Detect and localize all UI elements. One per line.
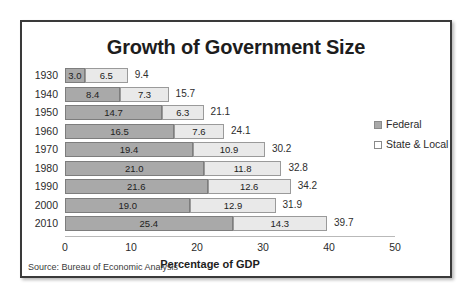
figure-page: Growth of Government Size 19303.06.59.41… — [0, 0, 468, 298]
bar-value-federal: 8.4 — [66, 88, 119, 101]
bar-value-federal: 19.0 — [66, 199, 189, 212]
year-axis-label: 1960 — [22, 125, 58, 137]
bar-total-label: 21.1 — [211, 106, 230, 117]
legend-label: State & Local — [386, 138, 448, 150]
stacked-bar: 21.612.6 — [65, 179, 291, 194]
year-axis-label: 1950 — [22, 106, 58, 118]
bar-value-federal: 25.4 — [66, 217, 232, 230]
bar-value-federal: 19.4 — [66, 143, 192, 156]
bar-segment-state-local: 6.3 — [162, 105, 204, 120]
year-axis-label: 1930 — [22, 69, 58, 81]
chart-row: 19408.47.315.7 — [22, 87, 450, 102]
bar-value-state-local: 6.3 — [163, 106, 203, 119]
legend-item: Federal — [374, 118, 454, 138]
bar-segment-state-local: 14.3 — [233, 216, 327, 231]
x-axis-tick-label: 30 — [243, 241, 283, 253]
stacked-bar: 3.06.5 — [65, 68, 128, 83]
bar-segment-state-local: 12.6 — [208, 179, 291, 194]
bar-total-label: 30.2 — [272, 143, 291, 154]
bar-segment-federal: 25.4 — [65, 216, 233, 231]
bar-segment-federal: 21.6 — [65, 179, 208, 194]
source-note: Source: Bureau of Economic Analysis — [28, 262, 178, 272]
bar-value-state-local: 7.6 — [175, 125, 223, 138]
bar-segment-state-local: 7.3 — [120, 87, 168, 102]
bar-segment-federal: 16.5 — [65, 124, 174, 139]
bar-total-label: 15.7 — [176, 88, 195, 99]
x-axis-line — [65, 236, 395, 237]
bar-value-state-local: 12.9 — [191, 199, 274, 212]
x-axis-tick-label: 40 — [309, 241, 349, 253]
bar-segment-state-local: 7.6 — [174, 124, 224, 139]
bar-total-label: 34.2 — [298, 180, 317, 191]
stacked-bar: 21.011.8 — [65, 161, 281, 176]
bar-segment-federal: 8.4 — [65, 87, 120, 102]
bar-value-state-local: 12.6 — [209, 180, 290, 193]
bar-value-state-local: 14.3 — [234, 217, 326, 230]
stacked-bar: 14.76.3 — [65, 105, 204, 120]
bar-value-state-local: 7.3 — [121, 88, 167, 101]
bar-segment-federal: 14.7 — [65, 105, 162, 120]
year-axis-label: 1940 — [22, 88, 58, 100]
federal-swatch — [374, 121, 382, 129]
stacked-bar: 8.47.3 — [65, 87, 169, 102]
year-axis-label: 2010 — [22, 217, 58, 229]
bar-total-label: 9.4 — [135, 69, 149, 80]
bar-value-state-local: 6.5 — [86, 69, 127, 82]
bar-segment-state-local: 11.8 — [204, 161, 282, 176]
bar-segment-federal: 3.0 — [65, 68, 85, 83]
state-local-swatch — [374, 141, 382, 149]
x-axis-tick-label: 20 — [177, 241, 217, 253]
year-axis-label: 1970 — [22, 143, 58, 155]
bar-value-federal: 14.7 — [66, 106, 161, 119]
stacked-bar: 16.57.6 — [65, 124, 224, 139]
bar-value-state-local: 10.9 — [194, 143, 264, 156]
year-axis-label: 2000 — [22, 199, 58, 211]
bar-segment-state-local: 12.9 — [190, 198, 275, 213]
chart-row: 198021.011.832.8 — [22, 161, 450, 176]
bar-value-federal: 3.0 — [66, 69, 84, 82]
chart-legend: FederalState & Local — [374, 118, 454, 158]
x-axis-tick-label: 0 — [45, 241, 85, 253]
bar-segment-federal: 19.4 — [65, 142, 193, 157]
chart-row: 200019.012.931.9 — [22, 198, 450, 213]
bar-value-federal: 16.5 — [66, 125, 173, 138]
year-axis-label: 1990 — [22, 180, 58, 192]
legend-label: Federal — [386, 118, 422, 130]
chart-title: Growth of Government Size — [22, 36, 450, 59]
chart-row: 19303.06.59.4 — [22, 68, 450, 83]
chart-row: 199021.612.634.2 — [22, 179, 450, 194]
stacked-bar: 19.410.9 — [65, 142, 265, 157]
bar-total-label: 31.9 — [283, 199, 302, 210]
stacked-bar: 25.414.3 — [65, 216, 327, 231]
bar-segment-federal: 19.0 — [65, 198, 190, 213]
bar-value-federal: 21.6 — [66, 180, 207, 193]
chart-figure-frame: Growth of Government Size 19303.06.59.41… — [20, 20, 452, 278]
bar-segment-federal: 21.0 — [65, 161, 204, 176]
bar-segment-state-local: 10.9 — [193, 142, 265, 157]
bar-total-label: 24.1 — [231, 125, 250, 136]
stacked-bar: 19.012.9 — [65, 198, 276, 213]
bar-value-state-local: 11.8 — [205, 162, 281, 175]
x-axis-tick-label: 50 — [375, 241, 415, 253]
chart-row: 201025.414.339.7 — [22, 216, 450, 231]
year-axis-label: 1980 — [22, 162, 58, 174]
legend-item: State & Local — [374, 138, 454, 158]
bar-value-federal: 21.0 — [66, 162, 203, 175]
bar-segment-state-local: 6.5 — [85, 68, 128, 83]
x-axis-tick-label: 10 — [111, 241, 151, 253]
bar-total-label: 32.8 — [288, 162, 307, 173]
x-axis-tick-labels: 01020304050 — [22, 241, 450, 257]
bar-total-label: 39.7 — [334, 217, 353, 228]
